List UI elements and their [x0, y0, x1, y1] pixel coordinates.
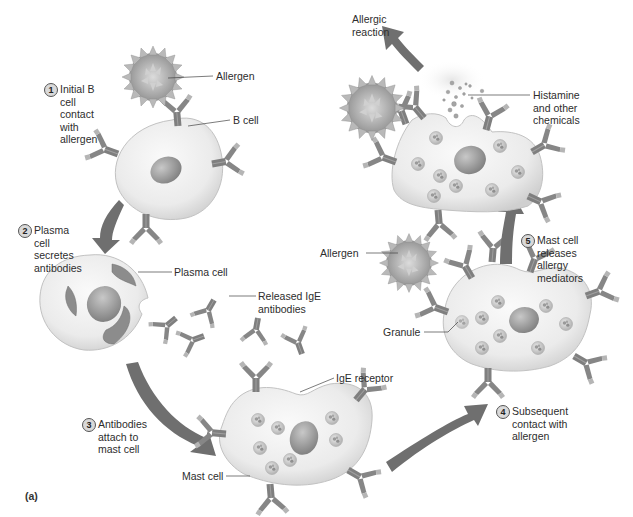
allergen-bound [339, 75, 404, 140]
arrow-step-3-to-4 [386, 404, 488, 472]
label-histamine: Histamine and other chemicals [533, 89, 580, 127]
mast-cell-contact [413, 230, 621, 399]
step-4-text: Subsequent contact with allergen [512, 405, 568, 443]
label-allergen-mid: Allergen [320, 247, 359, 260]
step-2-number: 2 [18, 224, 32, 238]
allergy-mechanism-diagram: 1 Initial B cell contact with allergen 2… [0, 0, 633, 517]
step-5-number: 5 [521, 234, 535, 248]
label-granule: Granule [383, 326, 420, 339]
step-3-text: Antibodies attach to mast cell [98, 418, 147, 456]
arrow-step-1-to-2 [92, 200, 124, 254]
step-5-text: Mast cell releases allergy mediators [537, 234, 583, 284]
label-b-cell: B cell [233, 114, 259, 127]
label-allergen-top: Allergen [216, 70, 255, 83]
label-mast-cell: Mast cell [182, 470, 223, 483]
label-plasma-cell: Plasma cell [174, 266, 228, 279]
allergen-top [122, 46, 184, 108]
step-2-text: Plasma cell secretes antibodies [34, 224, 82, 274]
step-1-text: Initial B cell contact with allergen [60, 83, 97, 146]
label-ige-receptor: IgE receptor [336, 372, 393, 385]
histamine-release [418, 60, 486, 118]
label-allergic-reaction: Allergic reaction [352, 13, 389, 38]
step-4-number: 4 [496, 405, 510, 419]
label-released-ige: Released IgE antibodies [258, 290, 321, 315]
panel-label: (a) [25, 490, 38, 502]
step-3-number: 3 [82, 418, 96, 432]
step-1-number: 1 [44, 83, 58, 97]
allergen-mid [380, 234, 439, 293]
